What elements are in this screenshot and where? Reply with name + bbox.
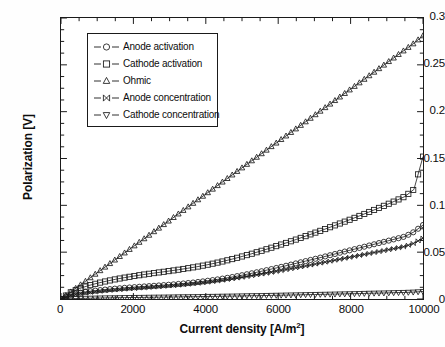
chart-legend: Anode activationCathode activationOhmicA… bbox=[87, 33, 218, 127]
x-tick-label: 6000 bbox=[266, 303, 291, 315]
y-axis-title: Polarization [V] bbox=[21, 67, 35, 247]
bowtie-marker-icon bbox=[93, 91, 120, 105]
triangle-up-marker-icon bbox=[93, 74, 120, 88]
square-marker-icon bbox=[93, 57, 120, 71]
legend-item-cathode-activation[interactable]: Cathode activation bbox=[88, 55, 217, 72]
legend-label: Ohmic bbox=[123, 76, 151, 86]
triangle-down-marker-icon bbox=[93, 108, 120, 122]
x-tick-label: 8000 bbox=[339, 303, 364, 315]
x-axis-title: Current density [A/m2] bbox=[60, 322, 424, 336]
legend-label: Anode concentration bbox=[123, 93, 211, 103]
legend-label: Cathode activation bbox=[123, 59, 202, 69]
x-tick-label: 10000 bbox=[409, 303, 440, 315]
legend-item-anode-concentration[interactable]: Anode concentration bbox=[88, 89, 217, 106]
polarization-chart-figure: 00.050.10.150.20.250.3 02000400060008000… bbox=[0, 0, 445, 347]
legend-label: Anode activation bbox=[123, 42, 194, 52]
x-tick-label: 2000 bbox=[120, 303, 145, 315]
x-tick-label: 0 bbox=[57, 303, 63, 315]
legend-item-cathode-concentration[interactable]: Cathode concentration bbox=[88, 106, 217, 123]
legend-item-ohmic[interactable]: Ohmic bbox=[88, 72, 217, 89]
x-tick-label: 4000 bbox=[193, 303, 218, 315]
legend-item-anode-activation[interactable]: Anode activation bbox=[88, 38, 217, 55]
legend-label: Cathode concentration bbox=[123, 110, 219, 120]
circle-marker-icon bbox=[93, 40, 120, 54]
